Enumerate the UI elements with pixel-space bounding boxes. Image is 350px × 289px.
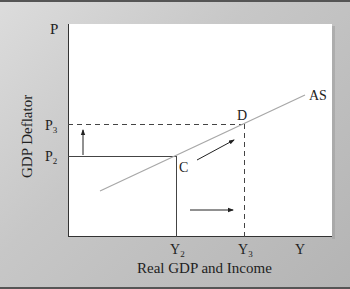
figure-frame: P P3 P2 Y2 Y3 Y C D AS Real GDP and Inco… [0,0,350,289]
p3-tick-label: P3 [45,118,58,135]
y2-tick-label: Y2 [170,242,185,259]
p2-tick-label: P2 [45,149,57,166]
x-axis-title: Real GDP and Income [137,260,272,276]
plot-area [68,24,332,237]
as-diagram: P P3 P2 Y2 Y3 Y C D AS Real GDP and Inco… [0,2,350,289]
y-axis-end-label: Y [295,242,305,257]
point-d-label: D [237,108,247,123]
y3-tick-label: Y3 [238,242,253,259]
point-c-label: C [179,160,188,175]
p-axis-label: P [50,21,58,37]
as-curve-label: AS [309,88,327,103]
y-axis-title: GDP Deflator [19,95,35,178]
